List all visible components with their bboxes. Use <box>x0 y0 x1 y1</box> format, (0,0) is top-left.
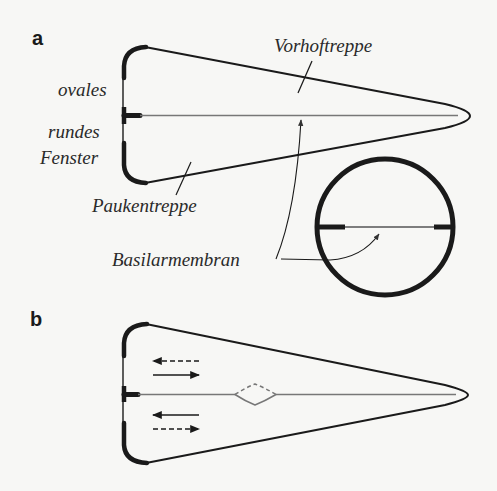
bone-wall-top-a <box>124 47 146 78</box>
cochlea-diagram: a b Vorhoftreppe ovales rundes Fenster P… <box>0 0 497 491</box>
diagram-graphics <box>0 0 497 491</box>
cochlea-outline-b <box>146 324 468 463</box>
panel-label-b: b <box>30 308 42 331</box>
label-fenster: Fenster <box>40 148 98 167</box>
membrane-bulge-up-dashed <box>235 384 276 395</box>
label-vorhoftreppe: Vorhoftreppe <box>274 36 372 55</box>
label-rundes: rundes <box>48 122 100 141</box>
label-basilarmembran: Basilarmembran <box>112 250 240 269</box>
label-ovales: ovales <box>58 80 107 99</box>
bone-wall-bottom-a <box>124 143 146 183</box>
label-paukentreppe: Paukentreppe <box>92 196 197 215</box>
cross-section-inset <box>281 159 453 295</box>
panel-b-cochlea <box>123 324 468 463</box>
membrane-bulge-down <box>235 395 276 406</box>
panel-label-a: a <box>32 27 43 50</box>
